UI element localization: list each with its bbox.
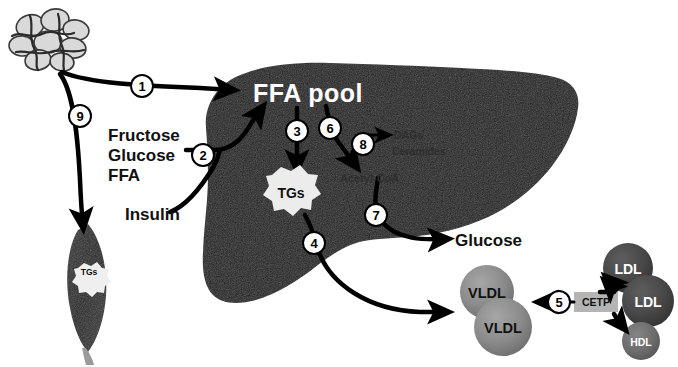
step-circle-4: 4 (303, 232, 325, 254)
muscle-cell: TGs (67, 224, 111, 365)
liver-tgs-label: TGs (277, 185, 304, 201)
insulin-label: Insulin (125, 205, 180, 224)
vldl-particle-2: VLDL (474, 298, 532, 356)
cetp-label: CETP (582, 296, 610, 308)
ceramides-label: Ceramides (392, 145, 446, 157)
pathway-diagram: TGs (0, 0, 678, 367)
muscle-tgs-label: TGs (81, 267, 98, 277)
ffa-pool-label: FFA pool (253, 79, 363, 107)
step-8-number: 8 (359, 137, 366, 152)
step-circle-8: 8 (352, 133, 374, 155)
step-9-number: 9 (76, 109, 83, 124)
step-4-number: 4 (310, 236, 318, 251)
ldl-particle-2: LDL (622, 275, 674, 327)
glucose-output-label: Glucose (455, 231, 522, 250)
input-ffa-label: FFA (108, 166, 140, 185)
hdl-particle: HDL (622, 322, 660, 360)
step-1-number: 1 (138, 79, 145, 94)
step-7-number: 7 (372, 208, 379, 223)
cetp-enzyme-box: CETP (574, 292, 618, 312)
step-circle-6: 6 (319, 117, 341, 139)
ldl-label-1: LDL (614, 261, 642, 277)
arrow-cetp-to-hdl (614, 314, 624, 328)
arrow-step-9 (60, 74, 83, 226)
adipose-tissue-cluster (8, 7, 91, 72)
vldl-label-2: VLDL (484, 320, 522, 336)
diagram-canvas: TGs (0, 0, 678, 367)
step-circle-2: 2 (192, 144, 214, 166)
input-glucose-label: Glucose (108, 146, 175, 165)
input-fructose-label: Fructose (108, 126, 180, 145)
step-circle-1: 1 (131, 75, 153, 97)
ldl-label-2: LDL (634, 294, 662, 310)
step-6-number: 6 (326, 121, 333, 136)
step-circle-5: 5 (548, 291, 570, 313)
step-circle-3: 3 (286, 120, 308, 142)
step-circle-9: 9 (69, 105, 91, 127)
acetyl-coa-label: Acetyl-CoA (340, 172, 399, 184)
step-circle-7: 7 (365, 204, 387, 226)
hdl-label: HDL (630, 336, 652, 348)
step-2-number: 2 (199, 148, 206, 163)
dags-label: DAGs (394, 129, 423, 141)
step-3-number: 3 (293, 124, 300, 139)
step-5-number: 5 (555, 295, 562, 310)
